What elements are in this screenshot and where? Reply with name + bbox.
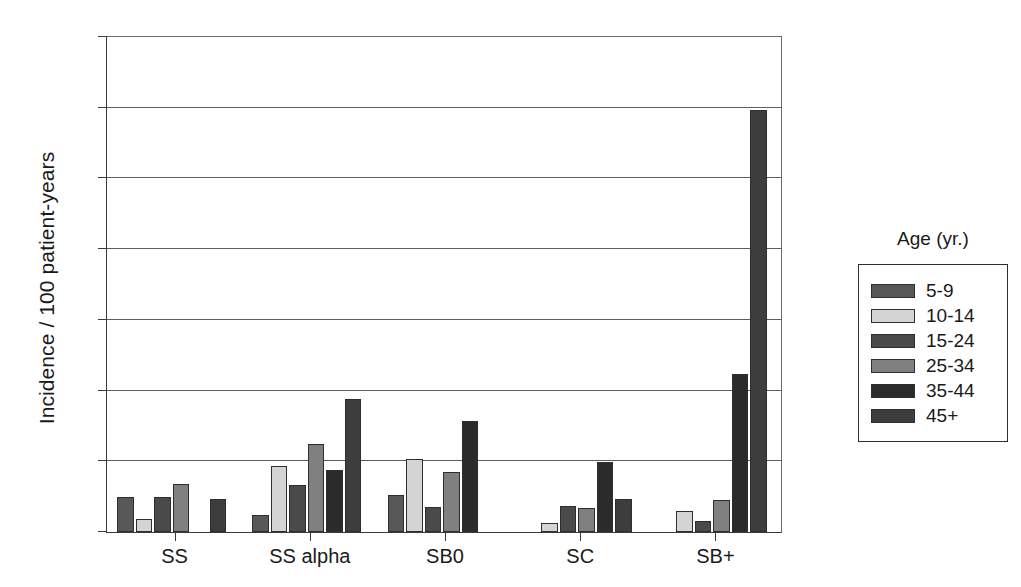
x-axis-tick-mark (175, 532, 176, 541)
x-axis-tick-label: SS alpha (269, 545, 350, 568)
bar (750, 110, 767, 532)
bar (308, 444, 325, 532)
y-axis-tick-mark (98, 177, 107, 178)
legend-item-label: 35-44 (926, 381, 975, 400)
bar (289, 485, 306, 532)
bar (578, 508, 595, 532)
legend-item-label: 15-24 (926, 331, 975, 350)
bar (117, 497, 134, 533)
legend-item: 10-14 (871, 303, 997, 328)
bar-cluster (388, 37, 499, 532)
y-axis-title: Incidence / 100 patient-years (35, 73, 59, 503)
y-axis-tick-mark (98, 107, 107, 108)
y-axis-tick-mark (98, 531, 107, 532)
bar (252, 515, 269, 532)
legend: Age (yr.) 5-910-1415-2425-3435-4445+ (858, 228, 1008, 442)
x-axis-tick-mark (445, 532, 446, 541)
bar (462, 421, 479, 532)
x-axis-tick-label: SB+ (696, 545, 734, 568)
bar (597, 462, 614, 532)
y-axis-tick-mark (98, 36, 107, 37)
x-axis-tick-label: SC (566, 545, 594, 568)
bar-cluster (117, 37, 228, 532)
bar (713, 500, 730, 532)
x-axis-tick-mark (310, 532, 311, 541)
legend-swatch (871, 384, 915, 398)
legend-item: 15-24 (871, 328, 997, 353)
y-axis-tick-mark (98, 390, 107, 391)
bar (345, 399, 362, 532)
bar (154, 497, 171, 533)
bar (560, 506, 577, 532)
bar (210, 499, 227, 532)
bar (173, 484, 190, 532)
bar-cluster (252, 37, 363, 532)
legend-item: 5-9 (871, 278, 997, 303)
legend-swatch (871, 409, 915, 423)
legend-swatch (871, 284, 915, 298)
bar-chart-figure: Incidence / 100 patient-years 0510152025… (0, 0, 1021, 587)
bar-cluster (523, 37, 634, 532)
plot-area: 05101520253035 SSSS alphaSB0SCSB+ (106, 36, 782, 533)
legend-item-label: 10-14 (926, 306, 975, 325)
y-axis-tick-mark (98, 319, 107, 320)
legend-swatch (871, 334, 915, 348)
legend-item: 35-44 (871, 378, 997, 403)
legend-item-label: 45+ (926, 406, 958, 425)
x-axis-tick-mark (715, 532, 716, 541)
legend-item: 25-34 (871, 353, 997, 378)
x-axis-tick-label: SS (161, 545, 188, 568)
legend-item-label: 5-9 (926, 281, 953, 300)
bar (541, 523, 558, 532)
bar (443, 472, 460, 532)
legend-title: Age (yr.) (858, 228, 1008, 250)
bar (388, 495, 405, 532)
y-axis-tick-mark (98, 460, 107, 461)
legend-swatch (871, 359, 915, 373)
bar (326, 470, 343, 532)
x-axis-tick-mark (580, 532, 581, 541)
bar (676, 511, 693, 532)
legend-swatch (871, 309, 915, 323)
bar (695, 521, 712, 532)
bar (406, 459, 423, 532)
legend-item-label: 25-34 (926, 356, 975, 375)
bar (732, 374, 749, 532)
bar-cluster (658, 37, 769, 532)
bar (615, 499, 632, 532)
bar (425, 507, 442, 532)
y-axis-tick-mark (98, 248, 107, 249)
x-axis-tick-label: SB0 (426, 545, 464, 568)
bar (136, 519, 153, 532)
bar (271, 466, 288, 532)
legend-box: 5-910-1415-2425-3435-4445+ (858, 264, 1008, 442)
legend-item: 45+ (871, 403, 997, 428)
